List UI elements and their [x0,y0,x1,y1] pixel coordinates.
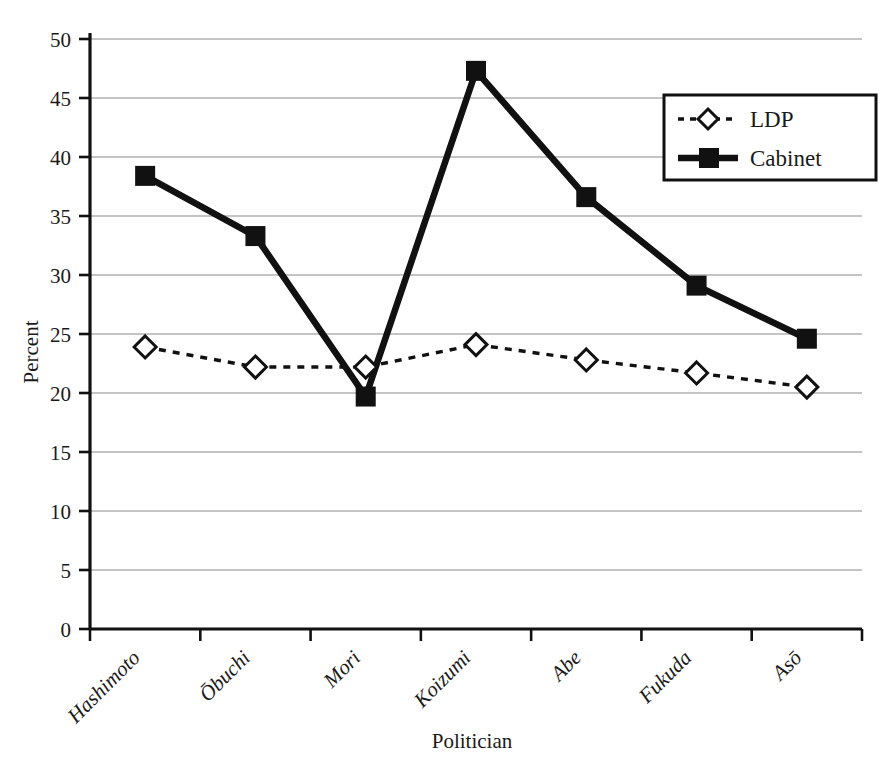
y-tick-label: 40 [50,146,71,170]
y-axis-title: Percent [19,320,43,383]
data-point-marker-cabinet [135,166,155,186]
chart-container: 05101520253035404550 HashimotoŌbuchiMori… [0,0,886,770]
y-tick-label: 0 [61,618,72,642]
legend-label-ldp: LDP [750,107,793,132]
y-tick-label: 50 [50,28,71,52]
y-tick-label: 30 [50,264,71,288]
y-tick-label: 5 [61,559,72,583]
y-tick-label: 10 [50,500,71,524]
y-tick-label: 15 [50,441,71,465]
legend-label-cabinet: Cabinet [750,146,822,171]
legend-cabinet-square-icon [699,148,719,168]
data-point-marker-cabinet [576,187,596,207]
x-axis-title: Politician [432,729,513,753]
data-point-marker-cabinet [466,61,486,81]
y-tick-label: 35 [50,205,71,229]
legend: LDP Cabinet [664,95,876,180]
y-tick-label: 25 [50,323,71,347]
legend-item-cabinet: Cabinet [678,146,822,171]
data-point-marker-cabinet [797,329,817,349]
y-tick-label: 20 [50,382,71,406]
y-tick-label: 45 [50,87,71,111]
data-point-marker-cabinet [245,226,265,246]
data-point-marker-cabinet [687,276,707,296]
line-chart: 05101520253035404550 HashimotoŌbuchiMori… [0,0,886,770]
data-point-marker-cabinet [356,387,376,407]
